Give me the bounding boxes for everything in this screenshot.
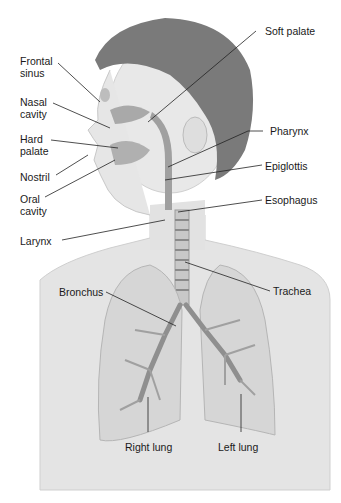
label-bronchus: Bronchus bbox=[59, 286, 103, 298]
label-right-lung: Right lung bbox=[125, 441, 172, 453]
label-pharynx: Pharynx bbox=[270, 125, 309, 137]
label-frontal-sinus: Frontal sinus bbox=[20, 55, 60, 79]
label-epiglottis: Epiglottis bbox=[265, 160, 308, 172]
label-trachea: Trachea bbox=[273, 285, 311, 297]
ear bbox=[183, 117, 207, 153]
label-soft-palate: Soft palate bbox=[265, 25, 315, 37]
frontal-sinus-shape bbox=[100, 88, 110, 102]
label-hard-palate: Hard palate bbox=[20, 133, 60, 157]
label-oral-cavity: Oral cavity bbox=[20, 193, 60, 217]
label-nostril: Nostril bbox=[20, 171, 50, 183]
label-left-lung: Left lung bbox=[218, 441, 258, 453]
label-esophagus: Esophagus bbox=[265, 194, 318, 206]
label-larynx: Larynx bbox=[20, 235, 52, 247]
label-nasal-cavity: Nasal cavity bbox=[20, 96, 60, 120]
